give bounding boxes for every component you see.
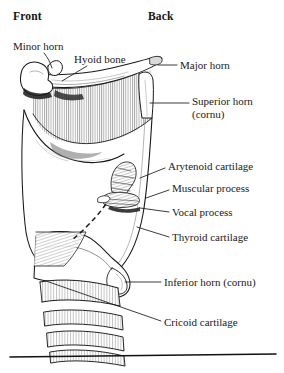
orientation-label-back: Back [148,10,174,22]
figure-canvas: Front Back Minor horn Hyoid bone Major h… [0,0,284,373]
label-hyoid-bone: Hyoid bone [74,53,126,66]
label-thyroid-cartilage: Thyroid cartilage [172,231,248,244]
leader-muscular-process [146,190,169,198]
label-inferior-horn: Inferior horn (cornu) [164,276,256,289]
label-vocal-process: Vocal process [172,206,233,219]
label-cricoid-cartilage: Cricoid cartilage [164,316,238,329]
leader-arytenoid [140,168,165,178]
label-minor-horn: Minor horn [13,40,63,53]
label-superior-horn-line2: (cornu) [192,108,253,121]
orientation-label-front: Front [13,10,42,22]
leader-thyroid-cartilage [137,227,169,237]
label-superior-horn: Superior horn (cornu) [192,95,253,120]
label-superior-horn-line1: Superior horn [192,95,253,107]
leader-vocal-process [140,208,169,212]
label-major-horn: Major horn [180,59,230,72]
label-arytenoid-cartilage: Arytenoid cartilage [168,160,253,173]
tracheal-rings-shape [44,310,125,366]
label-muscular-process: Muscular process [172,182,249,195]
